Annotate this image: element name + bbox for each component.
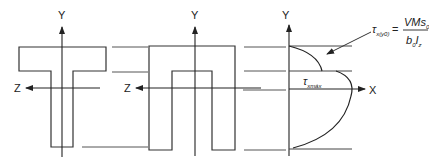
flange-stress-curve — [289, 46, 322, 71]
u-section: Y Z — [124, 9, 261, 156]
stress-distribution: Y X τxmáx — [282, 9, 377, 156]
shear-formula: τx(y0) = VMs0 b0Iz — [372, 16, 429, 48]
shear-stress-diagram: Y Z Y Z Y X τxmáx — [0, 0, 429, 160]
t-section: Y Z — [14, 9, 106, 157]
level-guide-lines — [82, 47, 286, 150]
tau-max-label: τxmáx — [303, 75, 322, 89]
z-axis-label: Z — [14, 82, 21, 94]
formula-lhs: τx(y0) — [372, 23, 389, 37]
formula-equals: = — [392, 23, 398, 35]
y-axis-label: Y — [282, 9, 290, 21]
web-stress-curve — [293, 71, 352, 148]
formula-pointer-arrow — [327, 32, 371, 54]
z-axis-label: Z — [124, 82, 131, 94]
x-axis-label: X — [369, 84, 377, 96]
formula-denominator: b0Iz — [406, 34, 422, 48]
y-axis-label: Y — [58, 9, 66, 21]
y-axis-label: Y — [191, 9, 199, 21]
formula-numerator: VMs0 — [404, 16, 429, 30]
